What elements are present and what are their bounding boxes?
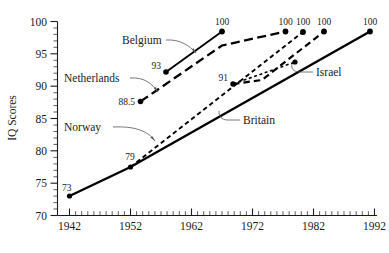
series-britain: [67, 29, 373, 199]
series-belgium-point-1958: [163, 69, 169, 75]
annotation-norway-leader: [113, 127, 155, 141]
series-cluster-strand: [233, 32, 370, 85]
series-belgium: [163, 29, 225, 75]
annotation-netherlands-leader: [130, 78, 158, 92]
series-norway-line: [131, 32, 304, 167]
x-tick-label-1942: 1942: [58, 220, 81, 232]
x-tick-label-1952: 1952: [119, 220, 142, 232]
annotation-israel-label: Israel: [316, 66, 342, 78]
annotation-belgium: Belgium: [122, 34, 196, 53]
series-netherlands-point-1957: [138, 99, 144, 105]
point-label-belgium-100: 100: [215, 17, 230, 27]
chart-svg: 70 75 80 85 90 95 100 1942 1952 1962 197…: [0, 0, 389, 253]
series-israel: [230, 29, 327, 87]
x-minor-ticks: [76, 211, 369, 215]
iq-scores-line-chart: 70 75 80 85 90 95 100 1942 1952 1962 197…: [0, 0, 389, 253]
y-axis-title: IQ Scores: [6, 95, 18, 141]
y-tick-label-75: 75: [36, 177, 48, 189]
annotation-norway-label: Norway: [64, 121, 101, 134]
y-tick-label-80: 80: [36, 145, 48, 157]
x-axis: [58, 209, 378, 216]
y-tick-label-95: 95: [36, 48, 48, 60]
point-label-netherlands-885: 88.5: [118, 97, 135, 107]
series-belgium-point-1968: [219, 29, 225, 35]
y-tick-label-85: 85: [36, 113, 48, 125]
annotation-norway: Norway: [64, 121, 155, 141]
y-tick-label-70: 70: [36, 210, 48, 222]
annotation-belgium-label: Belgium: [122, 34, 162, 47]
point-label-norway-100: 100: [296, 17, 311, 27]
annotation-netherlands: Netherlands: [64, 72, 158, 92]
point-label-israel-100: 100: [317, 17, 332, 27]
x-tick-label-1962: 1962: [180, 220, 203, 232]
y-tick-label-100: 100: [30, 16, 48, 28]
x-tick-label-1982: 1982: [302, 220, 325, 232]
series-norway-point-1982: [300, 29, 306, 35]
annotation-britain-label: Britain: [243, 114, 275, 126]
series-netherlands-point-1979: [283, 29, 289, 35]
point-label-israel-91: 91: [219, 73, 229, 83]
point-label-belgium-93: 93: [152, 61, 162, 71]
series-norway: [131, 29, 306, 167]
point-label-britain-100: 100: [363, 17, 378, 27]
x-tick-label-1972: 1972: [241, 220, 264, 232]
y-tick-label-90: 90: [36, 80, 48, 92]
point-label-britain-73: 73: [62, 183, 72, 193]
point-label-britain-79: 79: [125, 152, 135, 162]
series-strand-point: [292, 59, 297, 64]
series-israel-point-1984: [321, 29, 327, 35]
point-label-netherlands-100: 100: [278, 17, 293, 27]
y-axis: [51, 22, 58, 216]
x-tick-label-1992: 1992: [363, 220, 386, 232]
annotation-belgium-leader: [166, 40, 196, 53]
annotation-netherlands-label: Netherlands: [64, 72, 120, 84]
series-britain-line: [70, 32, 371, 197]
series-britain-point-1942: [67, 193, 72, 198]
